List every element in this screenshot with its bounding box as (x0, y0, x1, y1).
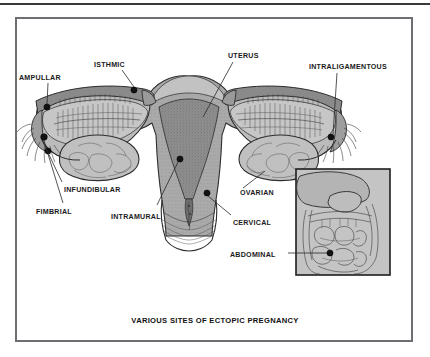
label-intramural: INTRAMURAL (111, 213, 161, 221)
label-ampullar: AMPULLAR (19, 74, 61, 82)
label-isthmic: ISTHMIC (94, 61, 125, 69)
label-cervical: CERVICAL (233, 219, 272, 227)
site-dot-intraligamentous (328, 134, 334, 140)
anatomy-diagram: AMPULLAR ISTHMIC UTERUS INTRALIGAMENTOUS… (0, 0, 430, 357)
label-uterus: UTERUS (228, 52, 259, 60)
label-infundibular: INFUNDIBULAR (64, 186, 121, 194)
abdominal-cavity-inset (296, 169, 390, 275)
label-fimbrial: FIMBRIAL (36, 208, 72, 216)
figure-caption: VARIOUS SITES OF ECTOPIC PREGNANCY (131, 316, 298, 325)
site-dot-ampullar (44, 104, 50, 110)
left-fallopian-tube-and-ovary (17, 86, 156, 181)
site-dot-isthmic (131, 87, 137, 93)
site-dot-cervical (204, 190, 210, 196)
ectopic-pregnancy-figure: AMPULLAR ISTHMIC UTERUS INTRALIGAMENTOUS… (0, 0, 430, 357)
label-ovarian: OVARIAN (240, 189, 274, 197)
site-dot-infundibular (41, 134, 48, 141)
site-dot-intramural (177, 156, 183, 162)
site-dot-abdominal (327, 250, 333, 256)
right-fallopian-tube-and-ovary (222, 86, 361, 181)
leader-isthmic (122, 70, 134, 87)
label-intraligamentous: INTRALIGAMENTOUS (309, 63, 387, 71)
label-abdominal: ABDOMINAL (230, 251, 276, 259)
